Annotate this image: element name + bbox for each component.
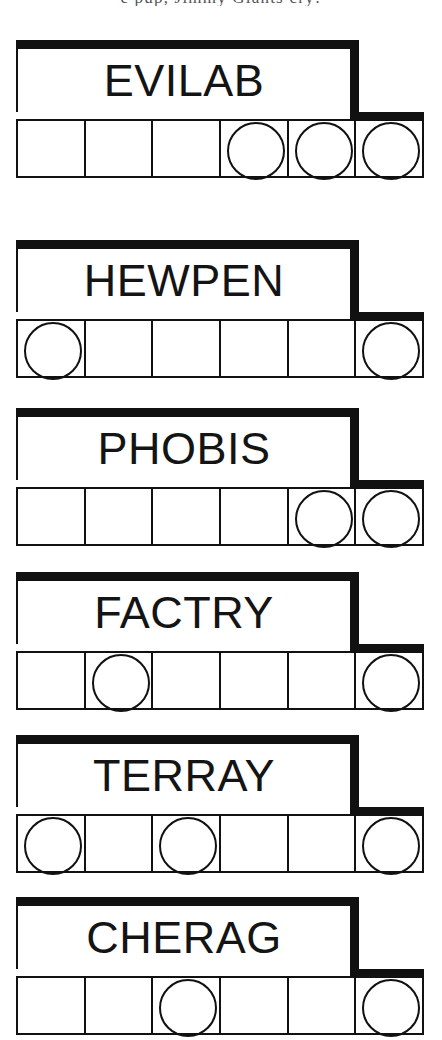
grid-cell[interactable] [86, 816, 154, 871]
cut-off-header-text: e pup, Jimmy Giants cry! [0, 0, 442, 6]
record-block: CHERAG [16, 897, 424, 1035]
circle-marker-icon [295, 122, 353, 180]
block-title-bar: EVILAB [16, 40, 359, 112]
circle-marker-icon [362, 979, 420, 1037]
record-block: PHOBIS [16, 408, 424, 546]
circle-marker-icon [362, 817, 420, 875]
grid-cell[interactable] [18, 978, 86, 1033]
grid-cell[interactable] [356, 489, 422, 544]
circle-marker-icon [362, 654, 420, 712]
record-block: TERRAY [16, 735, 424, 873]
grid-cell[interactable] [356, 816, 422, 871]
grid-cell[interactable] [153, 121, 221, 176]
circle-marker-icon [159, 817, 217, 875]
circle-marker-icon [24, 322, 82, 380]
circle-marker-icon [92, 654, 150, 712]
grid-cell[interactable] [289, 321, 357, 376]
block-title: TERRAY [18, 752, 350, 797]
block-cell-row [16, 480, 424, 546]
cell-grid [16, 976, 424, 1035]
record-block: EVILAB [16, 40, 424, 178]
block-title-bar: CHERAG [16, 897, 359, 969]
circle-marker-icon [159, 979, 217, 1037]
grid-cell[interactable] [18, 121, 86, 176]
record-block: HEWPEN [16, 240, 424, 378]
block-cell-row [16, 312, 424, 378]
grid-cell[interactable] [221, 489, 289, 544]
grid-cell[interactable] [86, 489, 154, 544]
circle-marker-icon [362, 322, 420, 380]
grid-cell[interactable] [86, 121, 154, 176]
grid-cell[interactable] [356, 653, 422, 708]
grid-cell[interactable] [18, 653, 86, 708]
cell-grid [16, 487, 424, 546]
sheet-canvas: e pup, Jimmy Giants cry! EVILABHEWPENPHO… [0, 0, 442, 1040]
grid-cell[interactable] [18, 321, 86, 376]
grid-cell[interactable] [86, 653, 154, 708]
block-title-bar: TERRAY [16, 735, 359, 807]
grid-cell[interactable] [153, 653, 221, 708]
block-title-bar: HEWPEN [16, 240, 359, 312]
block-cell-row [16, 644, 424, 710]
grid-cell[interactable] [221, 653, 289, 708]
grid-cell[interactable] [86, 978, 154, 1033]
cell-grid [16, 651, 424, 710]
grid-cell[interactable] [356, 121, 422, 176]
block-title-bar: PHOBIS [16, 408, 359, 480]
grid-cell[interactable] [289, 653, 357, 708]
circle-marker-icon [362, 122, 420, 180]
cell-grid [16, 119, 424, 178]
block-title: CHERAG [18, 914, 350, 959]
grid-cell[interactable] [221, 978, 289, 1033]
block-title: PHOBIS [18, 425, 350, 470]
cell-grid [16, 814, 424, 873]
cell-grid [16, 319, 424, 378]
block-title: FACTRY [18, 589, 350, 634]
grid-cell[interactable] [153, 489, 221, 544]
block-cell-row [16, 969, 424, 1035]
block-cell-row [16, 807, 424, 873]
grid-cell[interactable] [356, 978, 422, 1033]
grid-cell[interactable] [153, 978, 221, 1033]
block-title: HEWPEN [18, 257, 350, 302]
grid-cell[interactable] [18, 816, 86, 871]
grid-cell[interactable] [153, 816, 221, 871]
grid-cell[interactable] [289, 489, 357, 544]
block-cell-row [16, 112, 424, 178]
grid-cell[interactable] [289, 978, 357, 1033]
grid-cell[interactable] [356, 321, 422, 376]
grid-cell[interactable] [221, 121, 289, 176]
circle-marker-icon [24, 817, 82, 875]
circle-marker-icon [227, 122, 285, 180]
grid-cell[interactable] [18, 489, 86, 544]
grid-cell[interactable] [86, 321, 154, 376]
circle-marker-icon [295, 490, 353, 548]
circle-marker-icon [362, 490, 420, 548]
grid-cell[interactable] [221, 816, 289, 871]
grid-cell[interactable] [153, 321, 221, 376]
block-title: EVILAB [18, 57, 350, 102]
block-title-bar: FACTRY [16, 572, 359, 644]
record-block: FACTRY [16, 572, 424, 710]
grid-cell[interactable] [289, 121, 357, 176]
grid-cell[interactable] [289, 816, 357, 871]
grid-cell[interactable] [221, 321, 289, 376]
